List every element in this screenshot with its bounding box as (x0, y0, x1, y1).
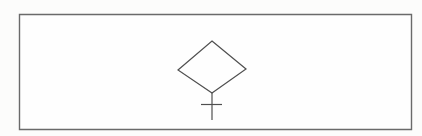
figure-panel (0, 0, 422, 136)
diagram-canvas (0, 0, 422, 136)
figure-frame (20, 15, 412, 130)
